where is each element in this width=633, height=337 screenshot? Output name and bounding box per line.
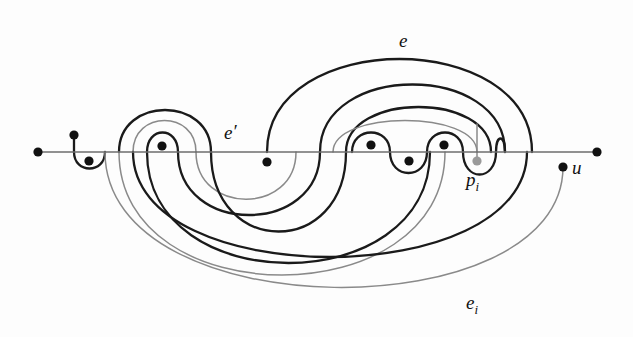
figure-container: ee′eipiu [0,0,633,337]
dot-vertex-4 [262,157,271,166]
dot-endpoint-left [33,147,42,156]
dot-vertex-2 [84,156,93,165]
label-e-i-subscript: i [474,302,478,317]
label-e-prime-base: e [224,122,232,143]
label-e-prime: e′ [224,121,237,143]
label-e-i-base: e [466,292,474,313]
dot-point-u [558,162,567,171]
dot-vertex-6 [404,156,413,165]
label-p-i-base: p [464,169,476,190]
dot-point-pi [472,156,481,165]
dot-endpoint-right [592,147,601,156]
dot-vertex-1 [69,130,78,139]
arc-diagram-svg: ee′eipiu [0,0,633,337]
label-e-base: e [399,30,407,51]
label-p-i-subscript: i [476,179,480,194]
dot-vertex-3 [157,141,166,150]
dot-vertex-5 [366,140,375,149]
label-u-base: u [572,157,582,178]
label-u: u [572,157,582,178]
label-e: e [399,30,407,51]
dot-vertex-7 [439,140,448,149]
